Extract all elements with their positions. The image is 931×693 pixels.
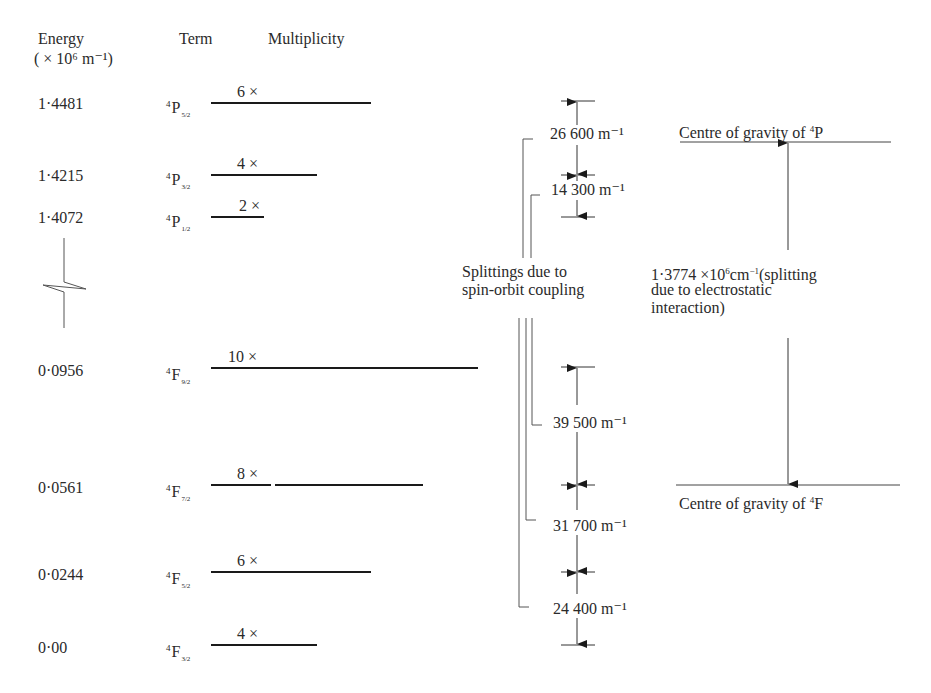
electrostatic-label-line1: 1·3774 ×106cm−1(splitting: [651, 263, 817, 283]
splitting-value: 31 700 m⁻¹: [551, 517, 629, 535]
diagram-lines: [0, 0, 931, 693]
spin-orbit-label-line1: Splittings due to: [462, 263, 567, 280]
splitting-value: 14 300 m⁻¹: [549, 181, 627, 199]
splitting-value: 26 600 m⁻¹: [548, 125, 626, 143]
centre-of-gravity-F-label: Centre of gravity of 4F: [679, 492, 823, 512]
spin-orbit-label-line2: spin-orbit coupling: [462, 281, 584, 298]
electrostatic-label-line2: due to electrostatic: [651, 281, 772, 298]
centre-of-gravity-P-label: Centre of gravity of 4P: [679, 121, 823, 141]
axis-break-icon: [43, 238, 86, 328]
splitting-value: 24 400 m⁻¹: [551, 600, 629, 618]
splitting-value: 39 500 m⁻¹: [551, 414, 629, 432]
electrostatic-label-line3: interaction): [651, 299, 725, 316]
